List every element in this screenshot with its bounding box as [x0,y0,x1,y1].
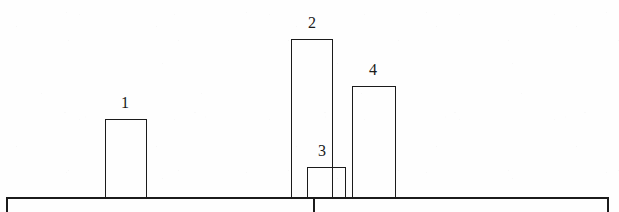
bar-label-3: 3 [318,143,326,159]
bar-chart-figure: 1 2 4 3 [0,0,619,212]
bar-3[interactable] [307,167,346,197]
bar-4[interactable] [352,86,396,197]
axis-right-end-cap [607,197,609,212]
bar-label-2: 2 [308,15,316,31]
plot-area: 1 2 4 3 [0,0,619,212]
bar-1[interactable] [105,119,147,197]
bar-label-1: 1 [121,95,129,111]
axis-baseline [6,197,609,199]
axis-tick-mark [313,197,315,212]
bar-label-4: 4 [369,62,377,78]
axis-left-end-cap [6,197,8,212]
